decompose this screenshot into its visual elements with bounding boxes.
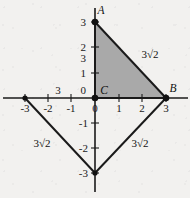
point-label-C: C (100, 84, 108, 96)
x-tick-label-neg1: -1 (66, 102, 75, 114)
x-tick-label-2: 2 (139, 102, 145, 114)
segment-lower-left (25, 98, 95, 173)
geometry-figure: A C B 3 2 3 1 0 -1 -2 -3 -3 -2 -1 3 0 1 … (0, 0, 190, 198)
segment-lower-right (95, 98, 166, 173)
y-tick-label-neg3: -3 (79, 167, 89, 179)
y-axis-stray-label: 3 (81, 52, 87, 64)
point-B-dot (163, 95, 170, 102)
x-origin-label: 0 (92, 102, 98, 114)
length-label-hypotenuse: 3√2 (141, 48, 158, 60)
point-C-dot (92, 95, 99, 102)
x-tick-label-3: 3 (163, 102, 169, 114)
point-label-A: A (96, 4, 105, 16)
y-tick-label-neg1: -1 (79, 117, 88, 129)
length-label-lower-right: 3√2 (131, 137, 148, 149)
y-tick-label-3: 3 (81, 16, 87, 28)
x-tick-label-neg3: -3 (20, 102, 30, 114)
point-bottom-dot (92, 170, 97, 175)
point-label-B: B (169, 82, 176, 94)
x-tick-label-neg2: -2 (43, 102, 52, 114)
y-tick-label-1: 1 (81, 67, 87, 79)
x-axis-stray-label: 3 (55, 84, 61, 96)
x-tick-label-1: 1 (116, 102, 122, 114)
y-tick-label-neg2: -2 (79, 142, 88, 154)
point-A-dot (92, 19, 99, 26)
length-label-lower-left: 3√2 (33, 137, 50, 149)
point-left-dot (22, 95, 27, 100)
y-origin-label: 0 (81, 84, 87, 96)
